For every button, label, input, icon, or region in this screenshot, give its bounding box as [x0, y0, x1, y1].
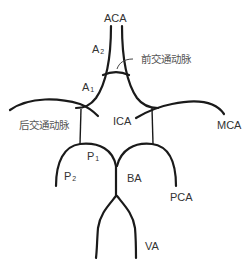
p2-main: P [64, 170, 71, 182]
circle-of-willis-diagram [0, 0, 246, 267]
ba-label: BA [127, 173, 142, 184]
p1-main: P [87, 150, 94, 162]
right-pca-vessel [117, 144, 176, 186]
ica-label: ICA [113, 116, 131, 127]
a1-sub: 1 [90, 86, 94, 93]
right-va-vessel [117, 196, 136, 258]
aca-left-vessel [76, 26, 111, 108]
a1-main: A [82, 81, 89, 93]
aca-label: ACA [104, 13, 127, 24]
p1-label: P1 [87, 151, 99, 162]
a2-label: A2 [92, 44, 104, 55]
pcom-right-vessel [152, 108, 153, 144]
p2-label: P2 [64, 171, 76, 182]
pcom-label: 后交通动脉 [19, 120, 69, 131]
pcom-left-vessel [80, 109, 81, 144]
a2-main: A [92, 43, 99, 55]
a1-label: A1 [82, 82, 94, 93]
acom-vessel [103, 72, 129, 75]
p2-sub: 2 [72, 175, 76, 182]
right-mca-vessel [136, 101, 224, 118]
aca-right-vessel [122, 26, 158, 108]
mca-label: MCA [217, 120, 241, 131]
a2-sub: 2 [100, 48, 104, 55]
left-va-vessel [96, 196, 116, 258]
acom-label: 前交通动脉 [141, 54, 191, 65]
pca-label: PCA [170, 192, 193, 203]
va-label: VA [145, 241, 159, 252]
p1-sub: 1 [95, 155, 99, 162]
